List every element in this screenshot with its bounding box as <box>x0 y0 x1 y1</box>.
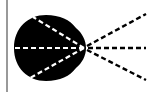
diagram-canvas <box>0 0 147 92</box>
outer-rays <box>87 14 146 80</box>
ray-diagram <box>0 0 147 92</box>
outer-ray-lower <box>87 50 146 80</box>
outer-ray-upper <box>87 14 146 46</box>
